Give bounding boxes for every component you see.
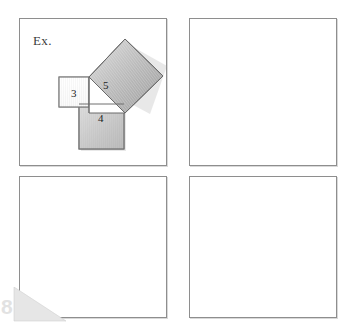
panel-blank-2[interactable] bbox=[19, 176, 167, 318]
worksheet: Ex. bbox=[0, 0, 354, 335]
panel-blank-1[interactable] bbox=[189, 18, 337, 166]
watermark-digit: 8 bbox=[1, 296, 13, 317]
label-five: 5 bbox=[103, 80, 109, 91]
example-label: Ex. bbox=[33, 33, 52, 49]
label-three: 3 bbox=[71, 88, 77, 99]
label-four: 4 bbox=[98, 113, 104, 124]
panel-blank-3[interactable] bbox=[189, 176, 337, 318]
